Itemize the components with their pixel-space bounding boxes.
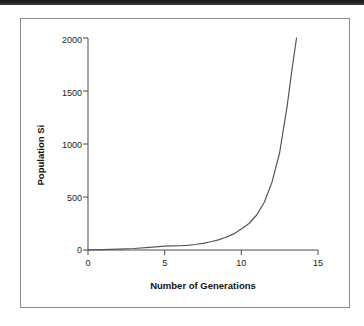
population-growth-chart: Population Si 2000 1500 1000 500 0 0 5 1… xyxy=(0,0,364,326)
x-axis-ticks xyxy=(88,250,318,255)
plot-canvas xyxy=(0,0,364,326)
population-curve xyxy=(88,38,297,250)
y-axis-ticks xyxy=(83,38,88,250)
